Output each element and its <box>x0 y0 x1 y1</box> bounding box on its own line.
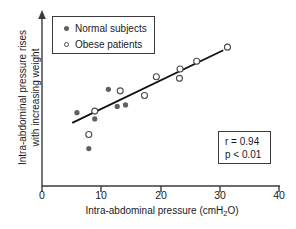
data-point <box>86 132 92 138</box>
data-points-group <box>74 44 230 151</box>
data-point <box>142 93 148 99</box>
data-point <box>176 75 182 81</box>
data-point <box>123 102 128 107</box>
x-tick-label-20: 20 <box>149 189 173 201</box>
x-axis-title-prefix: Intra-abdominal pressure (cmH <box>85 205 223 216</box>
data-point <box>177 66 183 72</box>
y-axis-title-line2: with increasing weight <box>29 3 42 193</box>
x-axis-title-subscript: 2 <box>223 209 227 218</box>
data-point <box>115 104 120 109</box>
data-point <box>74 110 79 115</box>
legend-item-obese-patients: Obese patients <box>60 36 154 52</box>
x-tick-label-10: 10 <box>89 189 113 201</box>
x-tick-label-30: 30 <box>208 189 232 201</box>
y-axis-title: Intra-abdominal pressure rises with incr… <box>17 3 42 193</box>
legend-item-normal-subjects: Normal subjects <box>60 20 154 36</box>
y-axis-title-line1: Intra-abdominal pressure rises <box>17 3 30 193</box>
data-point <box>117 88 123 94</box>
open-circle-icon <box>60 42 72 47</box>
data-point <box>86 146 91 151</box>
p-value-label: p < 0.01 <box>225 148 270 161</box>
x-tick-label-40: 40 <box>267 189 291 201</box>
legend-label-normal-subjects: Normal subjects <box>75 23 147 34</box>
data-point <box>92 116 97 121</box>
scatter-plot-figure: 0 10 20 30 40 Intra-abdominal pressure (… <box>0 0 296 229</box>
correlation-coefficient-label: r = 0.94 <box>225 135 270 148</box>
data-point <box>224 44 230 50</box>
filled-circle-icon <box>60 26 72 31</box>
x-axis-title: Intra-abdominal pressure (cmH2O) <box>42 205 282 216</box>
x-axis-title-suffix: O) <box>227 205 238 216</box>
data-point <box>106 87 111 92</box>
data-point <box>92 108 98 114</box>
legend-label-obese-patients: Obese patients <box>75 39 142 50</box>
data-point <box>194 58 200 64</box>
statistics-annotation-box: r = 0.94 p < 0.01 <box>218 131 271 164</box>
data-point <box>153 74 159 80</box>
legend: Normal subjects Obese patients <box>52 16 155 54</box>
